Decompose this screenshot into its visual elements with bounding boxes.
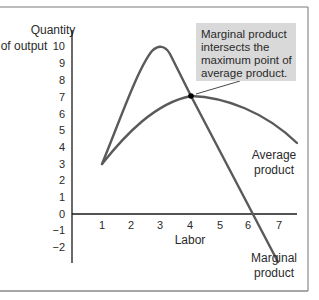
svg-text:6: 6 (245, 219, 251, 231)
svg-text:5: 5 (59, 124, 65, 136)
svg-text:−1: −1 (52, 224, 65, 236)
intersection-marker (188, 93, 194, 99)
annotation-leader-line (196, 81, 240, 94)
svg-text:average product.: average product. (201, 67, 287, 79)
svg-text:product: product (254, 266, 295, 280)
svg-text:−2: −2 (52, 241, 65, 253)
svg-text:maximum point of: maximum point of (201, 54, 293, 66)
svg-text:2: 2 (128, 219, 134, 231)
svg-text:Marginal product: Marginal product (201, 28, 287, 40)
y-tick-labels: 10 9 8 7 6 5 4 3 2 1 0 −1 −2 (52, 40, 65, 253)
marginal-average-product-chart: Quantity of output 10 9 8 7 6 5 4 3 2 1 … (0, 0, 319, 300)
svg-text:8: 8 (59, 74, 65, 86)
svg-text:intersects the: intersects the (201, 41, 269, 53)
svg-text:6: 6 (59, 108, 65, 120)
x-tick-labels: 1 2 3 4 5 6 7 (99, 219, 282, 231)
svg-text:3: 3 (157, 219, 163, 231)
svg-text:Marginal: Marginal (251, 251, 297, 265)
svg-text:7: 7 (59, 91, 65, 103)
svg-text:product: product (254, 163, 295, 177)
svg-text:1: 1 (59, 191, 65, 203)
svg-text:0: 0 (59, 208, 65, 220)
x-axis-label: Labor (175, 233, 206, 247)
svg-text:5: 5 (217, 219, 223, 231)
svg-text:2: 2 (59, 174, 65, 186)
y-axis-label-line1: Quantity (31, 23, 76, 37)
annotation-box: Marginal product intersects the maximum … (196, 23, 296, 81)
svg-text:3: 3 (59, 158, 65, 170)
svg-text:9: 9 (59, 57, 65, 69)
average-product-label: Average product (252, 148, 297, 177)
svg-text:7: 7 (276, 219, 282, 231)
svg-text:4: 4 (187, 219, 193, 231)
svg-text:Average: Average (252, 148, 297, 162)
svg-text:4: 4 (59, 141, 65, 153)
svg-text:1: 1 (99, 219, 105, 231)
y-axis-label-line2: of output (1, 39, 48, 53)
svg-text:10: 10 (53, 40, 65, 52)
marginal-product-label: Marginal product (251, 251, 297, 280)
